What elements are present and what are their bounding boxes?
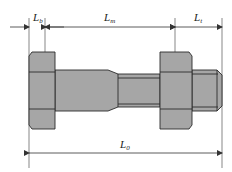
bolt-head [29,52,55,129]
bolt-end [192,70,222,111]
label-lb: Lb [32,11,43,25]
nut [160,52,192,129]
bolt-diagram: Lb Lm Lt L0 [0,0,232,172]
label-lt: Lt [193,11,203,25]
label-l0: L0 [119,138,130,152]
bolt-shank [55,70,160,111]
label-lm: Lm [103,11,115,25]
